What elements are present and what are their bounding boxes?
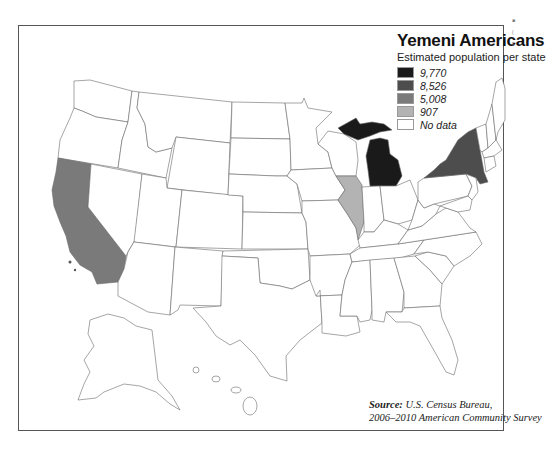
- state-new-mexico: [170, 247, 223, 315]
- map-title: Yemeni Americans: [397, 31, 546, 50]
- legend-label: No data: [420, 119, 457, 131]
- state-alaska: [78, 314, 180, 410]
- side-note: ■ ( F: [512, 14, 515, 50]
- state-wyoming: [167, 137, 230, 195]
- state-florida: [386, 306, 458, 375]
- legend-item: No data: [397, 118, 546, 131]
- map-subtitle: Estimated population per state: [397, 50, 546, 64]
- source-line-1: U.S. Census Bureau,: [405, 399, 492, 410]
- state-colorado: [176, 190, 243, 249]
- legend-label: 9,770: [420, 67, 446, 79]
- state-kansas: [242, 212, 308, 249]
- legend-item: 907: [397, 105, 546, 118]
- legend: Yemeni Americans Estimated population pe…: [397, 31, 546, 131]
- legend-swatch: [397, 93, 414, 104]
- island: [69, 261, 72, 264]
- legend-swatch: [397, 67, 414, 78]
- state-hawaii-kauai: [193, 367, 199, 373]
- source-line-2: 2006–2010 American Community Survey: [369, 411, 542, 424]
- legend-swatch: [397, 106, 414, 117]
- state-hawaii-maui: [231, 387, 241, 393]
- state-south-dakota: [229, 138, 291, 176]
- legend-label: 907: [420, 106, 438, 118]
- state-hawaii-oahu: [212, 376, 220, 382]
- state-michigan-lower: [366, 138, 402, 186]
- legend-item: 9,770: [397, 66, 546, 79]
- legend-swatch: [397, 80, 414, 91]
- island: [74, 269, 76, 271]
- state-connecticut: [484, 156, 496, 172]
- legend-item: 8,526: [397, 79, 546, 92]
- legend-swatch: [397, 119, 414, 130]
- state-ohio: [380, 180, 418, 224]
- state-hawaii-big-island: [243, 397, 257, 415]
- legend-label: 5,008: [420, 93, 446, 105]
- source-prefix: Source:: [369, 399, 403, 410]
- source-note: Source: U.S. Census Bureau, 2006–2010 Am…: [369, 398, 542, 424]
- legend-label: 8,526: [420, 80, 446, 92]
- side-note-line: (: [512, 26, 515, 38]
- side-note-line: F: [512, 38, 515, 50]
- state-minnesota: [285, 98, 332, 170]
- state-north-dakota: [231, 102, 290, 139]
- legend-item: 5,008: [397, 92, 546, 105]
- side-note-line: ■: [512, 14, 515, 26]
